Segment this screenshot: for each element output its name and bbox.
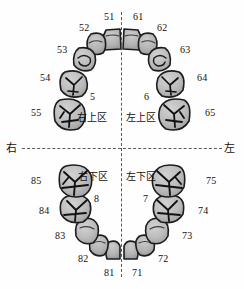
tooth-label-74: 74 [198,206,209,216]
tooth-label-55: 55 [31,108,42,118]
tooth-65 [159,99,190,130]
quadrant-number-upper-right: 5 [90,92,95,102]
side-label-left: 左 [224,143,235,154]
tooth-54 [60,71,87,97]
tooth-label-71: 71 [132,268,143,278]
tooth-53 [74,48,96,71]
tooth-label-53: 53 [57,45,68,55]
tooth-label-81: 81 [104,268,115,278]
quadrant-name-lower-right: 右下区 [78,172,108,182]
tooth-63 [149,48,171,71]
tooth-label-51: 51 [104,12,115,22]
dental-chart: 右 左 5 右上区 6 左上区 左下区 7 右下区 8 51 52 53 54 … [0,0,244,289]
tooth-label-84: 84 [39,206,50,216]
quadrant-name-upper-left: 左上区 [126,113,156,123]
side-label-right: 右 [6,143,17,154]
tooth-64 [157,71,184,97]
tooth-label-82: 82 [78,254,89,264]
tooth-label-52: 52 [79,23,90,33]
tooth-label-65: 65 [205,108,216,118]
tooth-label-85: 85 [31,176,42,186]
tooth-label-83: 83 [55,231,66,241]
tooth-label-63: 63 [180,45,191,55]
teeth-illustration [0,0,244,289]
quadrant-name-lower-left: 左下区 [126,172,156,182]
tooth-label-73: 73 [182,231,193,241]
vertical-midline [121,12,122,277]
tooth-label-64: 64 [197,73,208,83]
tooth-label-54: 54 [40,73,51,83]
horizontal-midline [22,148,222,149]
tooth-label-61: 61 [133,12,144,22]
tooth-75 [152,165,184,197]
quadrant-number-lower-left: 7 [143,194,148,204]
tooth-label-75: 75 [206,176,217,186]
tooth-label-62: 62 [157,23,168,33]
quadrant-name-upper-right: 右上区 [77,113,107,123]
tooth-74 [153,195,183,223]
tooth-label-72: 72 [158,254,169,264]
quadrant-number-lower-right: 8 [94,194,99,204]
tooth-84 [60,195,90,223]
quadrant-number-upper-left: 6 [144,92,149,102]
